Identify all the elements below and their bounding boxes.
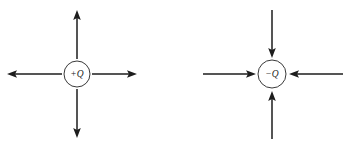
positive-vector-right: [92, 70, 137, 78]
negative-vector-down: [268, 91, 276, 139]
positive-charge-group: +Q: [7, 10, 137, 138]
negative-charge-group: −Q: [203, 10, 343, 139]
positive-vector-down: [73, 89, 81, 138]
positive-vector-left: [7, 70, 62, 78]
electric-field-diagram: +Q: [0, 0, 350, 148]
negative-charge-label: −Q: [265, 69, 278, 79]
negative-vector-up: [268, 10, 276, 58]
positive-charge-label: +Q: [70, 69, 83, 79]
positive-vector-up: [73, 10, 81, 59]
negative-vector-left: [203, 70, 256, 78]
negative-vector-right: [289, 70, 343, 78]
field-vectors-svg: +Q: [0, 0, 350, 148]
